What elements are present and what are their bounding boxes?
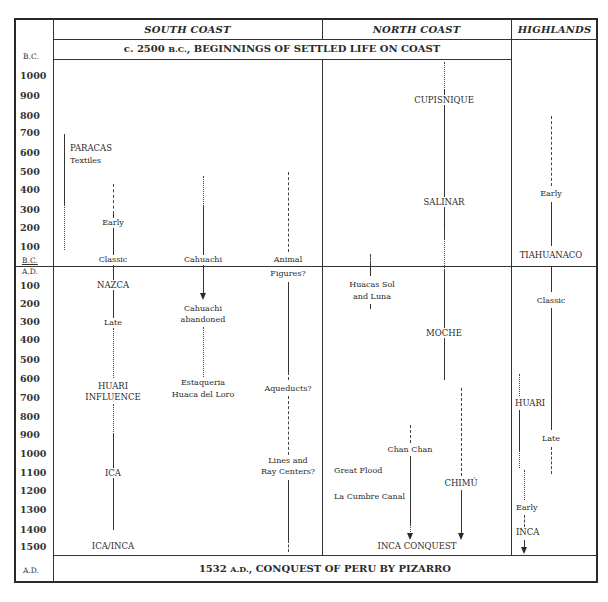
year-bc-300: 300 bbox=[20, 204, 40, 215]
year-ad-400: 400 bbox=[20, 334, 40, 345]
animal-figures-timeline bbox=[288, 172, 289, 252]
year-ad-1400: 1400 bbox=[20, 524, 46, 535]
header-highlands: HIGHLANDS bbox=[511, 24, 598, 35]
huari-timeline-start bbox=[519, 374, 520, 396]
label-ica-inca: ICA/INCA bbox=[91, 541, 135, 551]
label-textiles: Textiles bbox=[69, 156, 102, 166]
year-ad-1500: 1500 bbox=[20, 541, 46, 552]
label-estaqueria-2: Huaca del Loro bbox=[171, 390, 235, 400]
year-bc-200: 200 bbox=[20, 222, 40, 233]
ica-timeline-start bbox=[113, 404, 114, 434]
label-animal-2: Figures? bbox=[269, 269, 306, 279]
chimu-arrow-down-icon bbox=[458, 533, 464, 540]
banner-top-text: , BEGINNINGS OF SETTLED LIFE ON COAST bbox=[187, 43, 440, 54]
bc-ad-divider bbox=[15, 266, 597, 267]
label-cahuachi-abandoned-2: abandoned bbox=[180, 315, 227, 325]
moche-timeline bbox=[444, 270, 445, 380]
year-bc-500: 500 bbox=[20, 166, 40, 177]
huacas-timeline bbox=[370, 264, 371, 276]
huari-timeline bbox=[519, 410, 520, 450]
aqueducts-timeline bbox=[288, 282, 289, 372]
label-nazca-early: Early bbox=[101, 218, 125, 228]
tiahuanaco-timeline-start bbox=[551, 116, 552, 186]
cahuachi-timeline bbox=[203, 206, 204, 294]
label-inca-early: Early bbox=[515, 503, 539, 513]
label-estaqueria-1: Estaqueria bbox=[180, 378, 226, 388]
chimu-timeline bbox=[461, 490, 462, 534]
ica-timeline bbox=[113, 434, 114, 530]
label-huacas-2: and Luna bbox=[352, 292, 392, 302]
label-lines-2: Ray Centers? bbox=[260, 467, 316, 477]
year-ad-100: 100 bbox=[20, 280, 40, 291]
tiahuanaco-timeline-end bbox=[551, 447, 552, 474]
header-south-coast: SOUTH COAST bbox=[53, 24, 322, 35]
label-great-flood: Great Flood bbox=[333, 466, 383, 476]
axis-bc: B.C. bbox=[22, 256, 38, 265]
tiahuanaco-timeline-early bbox=[551, 202, 552, 246]
tiahuanaco-timeline-classic bbox=[551, 266, 552, 292]
inca-timeline-start bbox=[524, 470, 525, 500]
huari-timeline-fade bbox=[519, 450, 520, 468]
label-tiahuanaco: TIAHUANACO bbox=[519, 250, 584, 260]
year-bc-700: 700 bbox=[20, 127, 40, 138]
banner-settled-life: c. 2500 B.C., BEGINNINGS OF SETTLED LIFE… bbox=[53, 43, 511, 54]
north-highlands-divider bbox=[511, 19, 512, 555]
label-nazca-late: Late bbox=[103, 318, 123, 328]
label-chimu: CHIMÚ bbox=[443, 478, 478, 488]
lines-timeline-start bbox=[288, 396, 289, 460]
label-moche: MOCHE bbox=[425, 328, 463, 338]
year-bc-600: 600 bbox=[20, 147, 40, 158]
label-salinar: SALINAR bbox=[423, 197, 466, 207]
header-north-coast: NORTH COAST bbox=[322, 24, 511, 35]
label-tia-late: Late bbox=[541, 434, 561, 444]
paracas-timeline bbox=[64, 134, 65, 204]
axis-column-divider bbox=[53, 19, 54, 582]
axis-bc-top: B.C. bbox=[23, 52, 39, 61]
year-bc-1000: 1000 bbox=[20, 70, 46, 81]
nazca-timeline bbox=[113, 214, 114, 328]
label-tia-early: Early bbox=[539, 189, 563, 199]
header-row-divider bbox=[53, 39, 597, 40]
axis-ad-bottom: A.D. bbox=[23, 566, 39, 575]
inca-timeline bbox=[524, 515, 525, 527]
cahuachi-timeline-start bbox=[203, 176, 204, 206]
label-huari-influence-1: HUARI bbox=[97, 381, 129, 391]
chan-chan-arrow-down-icon bbox=[407, 533, 413, 540]
label-cupisnique: CUPISNIQUE bbox=[413, 95, 475, 105]
label-huari-influence-2: INFLUENCE bbox=[84, 392, 141, 402]
axis-ad: A.D. bbox=[22, 267, 38, 276]
huacas-timeline-end bbox=[370, 304, 371, 309]
label-nazca-classic: Classic bbox=[98, 255, 129, 265]
paracas-timeline-fade bbox=[64, 204, 65, 250]
cupisnique-timeline-start bbox=[444, 62, 445, 90]
banner-row-divider bbox=[53, 59, 511, 60]
year-bc-800: 800 bbox=[20, 110, 40, 121]
chan-chan-timeline bbox=[410, 456, 411, 524]
south-north-divider-main bbox=[322, 59, 323, 555]
label-lines-1: Lines and bbox=[267, 456, 308, 466]
banner-conquest: 1532 A.D., CONQUEST OF PERU BY PIZARRO bbox=[53, 563, 597, 574]
chimu-timeline-start bbox=[461, 388, 462, 476]
huacas-timeline-start bbox=[370, 254, 371, 264]
estaqueria-timeline bbox=[203, 327, 204, 377]
lines-timeline bbox=[288, 480, 289, 540]
chan-chan-timeline-start bbox=[410, 425, 411, 443]
salinar-timeline-fade bbox=[444, 230, 445, 270]
nazca-timeline-fade bbox=[113, 328, 114, 378]
cupisnique-timeline bbox=[444, 90, 445, 240]
label-inca: INCA bbox=[515, 527, 540, 537]
footer-row-divider bbox=[53, 555, 597, 556]
label-chan-chan: Chan Chan bbox=[387, 445, 434, 455]
banner-bottom-text: , CONQUEST OF PERU BY PIZARRO bbox=[249, 563, 451, 574]
year-ad-1200: 1200 bbox=[20, 485, 46, 496]
tiahuanaco-timeline-late bbox=[551, 308, 552, 430]
label-aqueducts: Aqueducts? bbox=[263, 384, 312, 394]
year-ad-500: 500 bbox=[20, 354, 40, 365]
year-ad-300: 300 bbox=[20, 316, 40, 327]
label-paracas: PARACAS bbox=[69, 143, 113, 153]
year-bc-900: 900 bbox=[20, 90, 40, 101]
nazca-timeline-start bbox=[113, 184, 114, 214]
label-ica: ICA bbox=[104, 468, 122, 478]
aqueducts-timeline-fade bbox=[288, 372, 289, 380]
label-la-cumbre: La Cumbre Canal bbox=[333, 492, 406, 502]
